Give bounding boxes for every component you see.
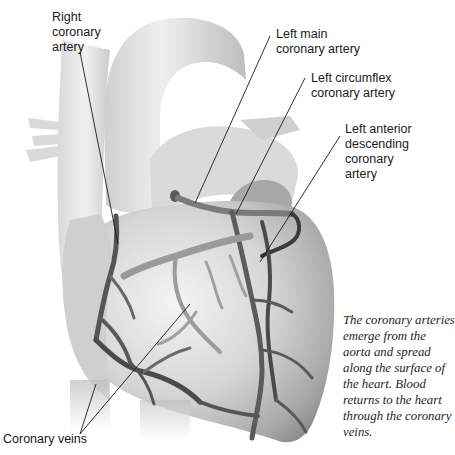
label-left-circumflex-coronary-artery: Left circumflex coronary artery xyxy=(311,71,395,101)
label-left-anterior-descending-coronary-artery: Left anterior descending coronary artery xyxy=(345,122,412,182)
pulmonary-veins xyxy=(26,118,62,162)
label-left-main-coronary-artery: Left main coronary artery xyxy=(276,27,360,57)
label-right-coronary-artery: Right coronary artery xyxy=(52,10,101,55)
label-coronary-veins: Coronary veins xyxy=(3,432,87,447)
figure-caption: The coronary arteries emerge from the ao… xyxy=(343,312,455,440)
